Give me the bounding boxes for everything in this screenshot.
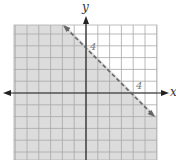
x-tick-4: 4 [135, 80, 142, 91]
y-axis-label: y [81, 0, 89, 14]
inequality-graph: y x 4 4 [0, 0, 176, 160]
x-axis-label: x [170, 85, 176, 99]
y-axis-up-arrow-icon [83, 16, 89, 24]
y-tick-4: 4 [89, 41, 96, 52]
x-axis-left-arrow-icon [3, 90, 11, 96]
x-axis-right-arrow-icon [161, 90, 169, 96]
